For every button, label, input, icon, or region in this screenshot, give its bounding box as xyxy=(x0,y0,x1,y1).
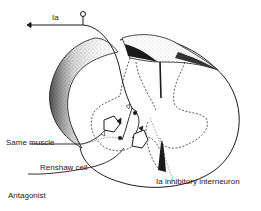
grey-matter-outline xyxy=(91,58,207,170)
label-renshaw-cell: Renshaw cell xyxy=(40,164,88,172)
label-ia: Ia xyxy=(52,14,59,22)
alpha-motor-neuron-same xyxy=(104,116,120,132)
label-antagonist: Antagonist xyxy=(8,192,46,200)
dorsal-column-right xyxy=(122,35,218,70)
ventral-median-fissure xyxy=(158,140,166,172)
dorsal-column-left xyxy=(50,38,118,148)
label-same-muscle: Same muscle xyxy=(6,139,54,147)
alpha-motor-neuron-antagonist xyxy=(132,130,148,148)
label-ia-inhibitory-interneuron: Ia inhibitory interneuron xyxy=(156,178,240,186)
dorsal-median-septum xyxy=(160,62,161,98)
